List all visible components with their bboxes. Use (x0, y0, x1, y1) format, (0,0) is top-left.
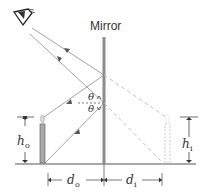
object-candle (40, 115, 45, 163)
svg-text:h: h (182, 137, 190, 151)
h-image-dimension: h i (180, 117, 198, 163)
arrow-icon (57, 56, 62, 62)
virtual-ray-bottom (104, 103, 163, 163)
theta-top-label: θ (88, 91, 94, 102)
svg-text:o: o (75, 180, 80, 189)
svg-text:i: i (134, 180, 137, 189)
image-candle (165, 115, 170, 163)
incident-ray-top (44, 75, 104, 117)
mirror-label: Mirror (90, 19, 121, 33)
svg-text:d: d (126, 173, 134, 187)
arrow-icon (74, 129, 80, 134)
d-image-dimension: d i (104, 173, 162, 189)
svg-text:h: h (17, 134, 25, 148)
theta-bottom-label: θ (88, 103, 94, 114)
svg-text:o: o (25, 141, 30, 150)
svg-text:i: i (190, 144, 193, 153)
incident-ray-bottom (45, 103, 104, 163)
d-object-dimension: d o (48, 164, 104, 189)
svg-text:d: d (67, 173, 75, 187)
mirror (103, 37, 106, 164)
virtual-ray-top (104, 75, 166, 117)
plane-mirror-diagram: Mirror θ θ h o (0, 0, 203, 193)
h-object-dimension: h o (17, 116, 34, 163)
eye-icon (14, 9, 35, 25)
